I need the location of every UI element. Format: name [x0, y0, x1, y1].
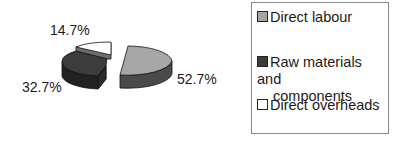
value-label-raw-materials: 32.7%	[22, 80, 62, 94]
legend: Direct labour Raw materials and componen…	[251, 2, 389, 134]
legend-item-direct-labour: Direct labour	[257, 9, 352, 26]
legend-swatch-direct-overheads	[257, 99, 268, 110]
value-label-direct-labour: 52.7%	[177, 72, 217, 86]
legend-swatch-direct-labour	[257, 11, 268, 22]
legend-label: Direct labour	[270, 9, 352, 25]
legend-label: Direct overheads	[270, 97, 380, 113]
legend-swatch-raw-materials	[257, 56, 268, 67]
legend-item-direct-overheads: Direct overheads	[257, 97, 380, 114]
value-label-direct-overheads: 14.7%	[50, 23, 90, 37]
slice-direct-labour	[120, 46, 172, 88]
legend-label: Raw materials and	[257, 54, 362, 87]
